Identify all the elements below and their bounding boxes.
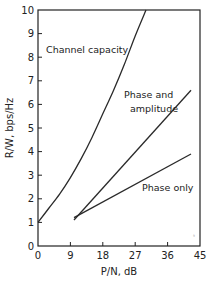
annotation-channel-capacity: Channel capacity xyxy=(46,44,129,55)
x-tick-label: 18 xyxy=(96,250,109,261)
y-tick-label: 2 xyxy=(28,193,34,204)
y-tick-label: 6 xyxy=(28,99,34,110)
y-tick-label: 9 xyxy=(28,28,34,39)
y-tick-label: 4 xyxy=(28,146,34,157)
y-tick-label: 8 xyxy=(28,52,34,63)
x-tick-label: 27 xyxy=(129,250,142,261)
y-axis-label: R/W, bps/Hz xyxy=(4,98,15,159)
y-axis-ticks: 012345678910 xyxy=(21,5,42,252)
annotation-phase-amplitude-line2: amplitude xyxy=(130,103,178,114)
x-axis-ticks: 0918273645 xyxy=(35,242,207,261)
x-tick-label: 45 xyxy=(194,250,207,261)
annotation-phase-only: Phase only xyxy=(142,182,194,193)
x-axis-label: P/N, dB xyxy=(101,266,138,277)
annotation-phase-amplitude-line1: Phase and xyxy=(124,89,173,100)
y-tick-label: 5 xyxy=(28,123,34,134)
y-tick-label: 3 xyxy=(28,170,34,181)
x-tick-label: 0 xyxy=(35,250,41,261)
x-tick-label: 9 xyxy=(67,250,73,261)
y-tick-label: 0 xyxy=(28,241,34,252)
y-tick-label: 10 xyxy=(21,5,34,16)
series-line xyxy=(38,10,146,222)
chart: 012345678910 0918273645 Channel capacity… xyxy=(0,0,216,283)
corner-mark: ᵃ xyxy=(193,233,195,239)
y-tick-label: 7 xyxy=(28,75,34,86)
x-tick-label: 36 xyxy=(161,250,174,261)
y-tick-label: 1 xyxy=(28,217,34,228)
